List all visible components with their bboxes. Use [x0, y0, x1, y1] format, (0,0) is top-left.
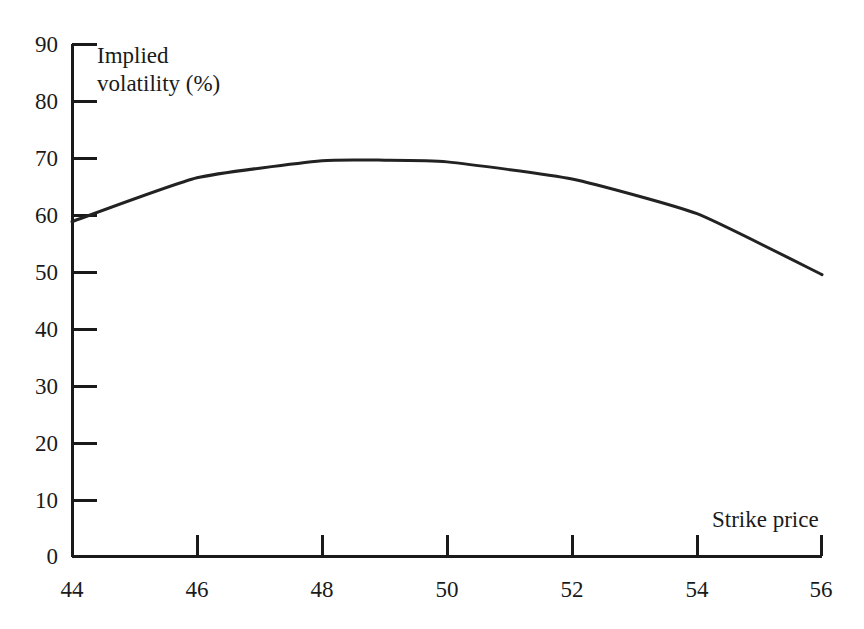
x-tick-label-56: 56: [810, 578, 833, 601]
x-axis-title: Strike price: [712, 506, 819, 534]
y-axis-title-line-1: Implied: [97, 42, 220, 70]
y-tick-label-80: 80: [10, 90, 58, 113]
volatility-smile-curve: [72, 160, 822, 275]
y-tick-label-90: 90: [10, 33, 58, 56]
y-axis-title-line-2: volatility (%): [97, 70, 220, 98]
y-tick-label-30: 30: [10, 375, 58, 398]
y-tick-label-50: 50: [10, 261, 58, 284]
x-tick-label-54: 54: [686, 578, 709, 601]
y-tick-label-20: 20: [10, 432, 58, 455]
x-tick-label-50: 50: [436, 578, 459, 601]
y-tick-label-60: 60: [10, 204, 58, 227]
chart-figure: 90 80 70 60 50 40 30 20 10 0 44 46 48 50…: [0, 0, 864, 629]
y-axis-title: Implied volatility (%): [97, 42, 220, 98]
x-tick-label-44: 44: [61, 578, 84, 601]
y-tick-label-70: 70: [10, 147, 58, 170]
y-tick-label-10: 10: [10, 489, 58, 512]
x-axis-ticks: [198, 535, 822, 556]
x-tick-label-52: 52: [561, 578, 584, 601]
x-tick-label-48: 48: [311, 578, 334, 601]
x-tick-label-46: 46: [186, 578, 209, 601]
y-axis-ticks: [72, 45, 97, 501]
y-tick-label-40: 40: [10, 318, 58, 341]
y-tick-label-0: 0: [10, 545, 58, 568]
